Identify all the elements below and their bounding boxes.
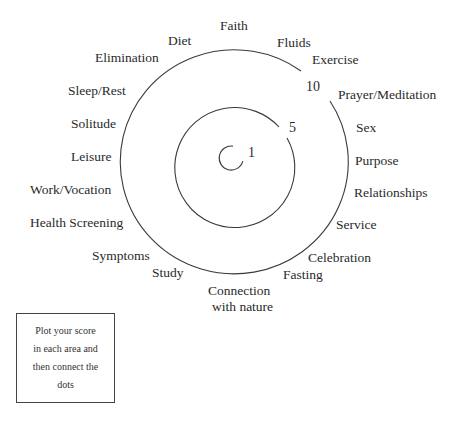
area-label-diet: Diet: [168, 33, 191, 48]
area-label-sleep-rest: Sleep/Rest: [68, 83, 126, 98]
scale-label-1: 1: [248, 145, 255, 160]
area-label-fluids: Fluids: [277, 35, 311, 50]
area-label-purpose: Purpose: [355, 153, 399, 168]
area-label-fasting: Fasting: [283, 267, 323, 282]
area-label-leisure: Leisure: [71, 149, 111, 164]
instructions-line-1: Plot your score: [35, 322, 96, 340]
ring-score-5: [175, 108, 295, 228]
instructions-box: Plot your score in each area and then co…: [16, 313, 115, 403]
area-label-elimination: Elimination: [95, 50, 159, 65]
area-label-prayer-meditation: Prayer/Meditation: [338, 87, 436, 102]
ring-score-1: [219, 146, 243, 170]
area-label-exercise: Exercise: [312, 52, 358, 67]
instructions-line-2: in each area and: [33, 340, 98, 358]
scale-label-10: 10: [306, 79, 320, 94]
area-label-health-screening: Health Screening: [30, 215, 124, 230]
area-label-study: Study: [152, 265, 184, 280]
area-label-faith: Faith: [220, 18, 248, 33]
area-label-connection: Connection: [208, 283, 270, 298]
instructions-line-4: dots: [57, 376, 74, 394]
area-label-celebration: Celebration: [308, 250, 371, 265]
area-label-work-vocation: Work/Vocation: [30, 182, 111, 197]
instructions-line-3: then connect the: [33, 358, 99, 376]
area-label-service: Service: [336, 217, 376, 232]
area-label-sex: Sex: [356, 120, 377, 135]
scale-label-5: 5: [289, 120, 296, 135]
area-label-relationships: Relationships: [354, 185, 428, 200]
area-label-solitude: Solitude: [71, 116, 116, 131]
area-label-with-nature: with nature: [212, 299, 273, 314]
area-label-symptoms: Symptoms: [92, 248, 150, 263]
